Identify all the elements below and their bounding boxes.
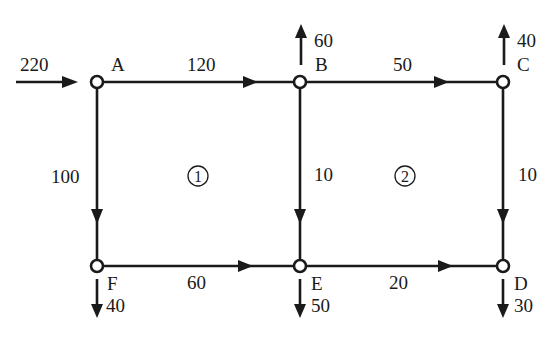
edge-e-d: 20 bbox=[306, 260, 497, 293]
outflow-b-value: 60 bbox=[314, 30, 333, 51]
inflow-arrow-a: 220 bbox=[16, 54, 78, 88]
node-a-label: A bbox=[111, 54, 125, 75]
outflow-c-value: 40 bbox=[517, 30, 536, 51]
edge-e-d-flow: 20 bbox=[389, 272, 408, 293]
arrow-down-icon bbox=[497, 304, 509, 318]
node-e-label: E bbox=[311, 273, 323, 294]
edge-f-e: 60 bbox=[103, 260, 294, 293]
arrow-right-icon bbox=[243, 76, 258, 88]
node-f bbox=[91, 260, 103, 272]
edge-b-e-flow: 10 bbox=[314, 164, 333, 185]
node-a bbox=[91, 76, 103, 88]
loop-1-label: 1 bbox=[194, 168, 202, 185]
edge-c-d-flow: 10 bbox=[518, 164, 537, 185]
node-c-label: C bbox=[517, 54, 530, 75]
arrow-down-icon bbox=[497, 209, 509, 224]
arrow-right-icon bbox=[438, 260, 453, 272]
arrow-down-icon bbox=[91, 304, 103, 318]
node-f-label: F bbox=[107, 273, 118, 294]
node-e bbox=[294, 260, 306, 272]
loop-1-marker: 1 bbox=[188, 166, 208, 186]
inflow-a-value: 220 bbox=[20, 54, 49, 75]
arrow-down-icon bbox=[294, 209, 306, 224]
node-b bbox=[294, 76, 306, 88]
arrow-down-icon bbox=[294, 304, 306, 318]
edge-a-f-flow: 100 bbox=[51, 166, 80, 187]
edge-b-e: 10 bbox=[294, 88, 333, 260]
edge-b-c: 50 bbox=[306, 54, 497, 88]
arrow-up-icon bbox=[295, 24, 307, 38]
edge-f-e-flow: 60 bbox=[187, 272, 206, 293]
outflow-f-value: 40 bbox=[106, 295, 125, 316]
edge-a-b: 120 bbox=[103, 54, 294, 88]
arrow-up-icon bbox=[498, 24, 510, 38]
arrow-right-icon bbox=[434, 76, 449, 88]
edge-a-b-flow: 120 bbox=[187, 54, 216, 75]
node-d bbox=[497, 260, 509, 272]
outflow-d-value: 30 bbox=[514, 295, 533, 316]
node-d-label: D bbox=[514, 273, 528, 294]
loop-2-marker: 2 bbox=[395, 166, 415, 186]
arrow-down-icon bbox=[91, 209, 103, 224]
node-c bbox=[497, 76, 509, 88]
pipe-network-diagram: 220 120 50 100 10 10 60 20 bbox=[0, 0, 559, 340]
edge-c-d: 10 bbox=[497, 88, 537, 260]
loop-2-label: 2 bbox=[401, 168, 409, 185]
outflow-e-value: 50 bbox=[311, 295, 330, 316]
arrow-right-icon bbox=[238, 260, 253, 272]
edge-a-f: 100 bbox=[51, 88, 103, 260]
edge-b-c-flow: 50 bbox=[393, 54, 412, 75]
node-b-label: B bbox=[315, 54, 328, 75]
